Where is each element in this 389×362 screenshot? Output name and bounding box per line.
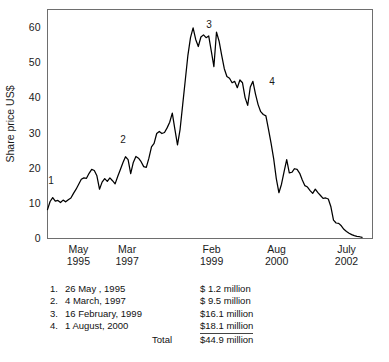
footnote-table: 1.26 May , 1995$ 1.2 million2.4 March, 1… [50,283,350,346]
footnote-number: 2. [50,295,65,307]
footnote-date: 26 May , 1995 [65,283,200,295]
y-tick-label: 0 [35,232,41,244]
x-tick-label-month: July [337,243,356,255]
x-tick-label-month: May [68,243,89,255]
total-label: Total [152,334,200,346]
annotation-4: 4 [269,76,275,87]
footnote-total-row: Total$44.9 million [50,334,350,346]
footnote-amount: $16.1 million [200,308,253,320]
annotation-3: 3 [206,19,212,30]
footnote-amount: $ 1.2 million [200,283,251,295]
footnote-date: 1 August, 2000 [65,320,200,332]
x-tick-label-year: 1995 [67,255,91,267]
x-tick-label-year: 1997 [115,255,139,267]
x-tick-label-month: Aug [267,243,286,255]
y-axis-title: Share price US$ [4,85,16,162]
y-tick-label: 40 [29,91,41,103]
footnote-number: 3. [50,308,65,320]
footnote-row: 2.4 March, 1997$ 9.5 million [50,295,350,307]
footnote-row: 4.1 August, 2000$18.1 million [50,320,350,332]
x-tick-label-year: 2002 [335,255,359,267]
y-tick-label: 10 [29,197,41,209]
x-tick-label-month: Mar [118,243,137,255]
y-tick-label: 20 [29,162,41,174]
footnote-row: 3.16 February, 1999$16.1 million [50,308,350,320]
footnote-number: 4. [50,320,65,332]
total-amount: $44.9 million [200,334,253,346]
y-tick-label: 50 [29,56,41,68]
y-tick-label: 30 [29,127,41,139]
footnote-row: 1.26 May , 1995$ 1.2 million [50,283,350,295]
annotation-1: 1 [48,175,54,186]
footnote-number: 1. [50,283,65,295]
footnote-date: 16 February, 1999 [65,308,200,320]
x-tick-label-month: Feb [203,243,221,255]
y-tick-label: 60 [29,21,41,33]
footnote-amount: $ 9.5 million [200,295,251,307]
footnote-amount: $18.1 million [200,320,253,333]
x-tick-label-year: 1999 [200,255,224,267]
x-tick-label-year: 2000 [265,255,289,267]
price-line [48,28,363,238]
annotation-2: 2 [120,134,126,145]
footnote-date: 4 March, 1997 [65,295,200,307]
